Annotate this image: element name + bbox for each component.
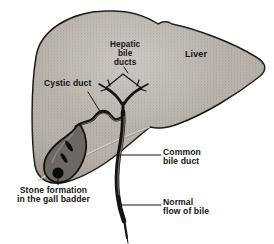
label-common-bile-duct: Common bile duct: [163, 148, 201, 167]
anatomy-illustration: [0, 0, 274, 244]
label-hepatic-bile-ducts: Hepatic bile ducts: [110, 41, 140, 68]
label-liver: Liver: [185, 50, 207, 60]
label-cystic-duct: Cystic duct: [44, 79, 91, 88]
label-normal-flow-of-bile: Normal flow of bile: [163, 198, 209, 217]
diagram-canvas: Hepatic bile ducts Liver Cystic duct Com…: [0, 0, 274, 244]
gallstone-round: [52, 167, 63, 178]
label-stone-formation: Stone formation in the gall badder: [17, 186, 90, 205]
